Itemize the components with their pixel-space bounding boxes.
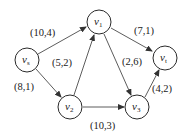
edge-label-v1-vt: (7,1) — [134, 25, 155, 37]
edge-vs-v2 — [36, 69, 61, 97]
node-v1: v1 — [87, 10, 111, 34]
edge-v2-v1 — [74, 35, 94, 95]
edge-label-vs-v2: (8,1) — [14, 81, 35, 93]
node-v3: v3 — [125, 95, 149, 119]
edge-label-v2-v3: (10,3) — [90, 120, 116, 132]
node-v2: v2 — [58, 95, 82, 119]
edge-label-v1-v3: (2,6) — [122, 56, 143, 68]
edge-label-v2-v1: (5,2) — [52, 57, 73, 69]
node-vt: vt — [153, 46, 177, 70]
node-vs: vs — [15, 48, 39, 72]
edge-label-vs-v1: (10,4) — [30, 27, 56, 39]
edge-label-v3-vt: (4,2) — [152, 83, 173, 95]
flow-network-diagram: (10,4) (8,1) (5,2) (7,1) (2,6) (10,3) (4… — [0, 0, 188, 136]
